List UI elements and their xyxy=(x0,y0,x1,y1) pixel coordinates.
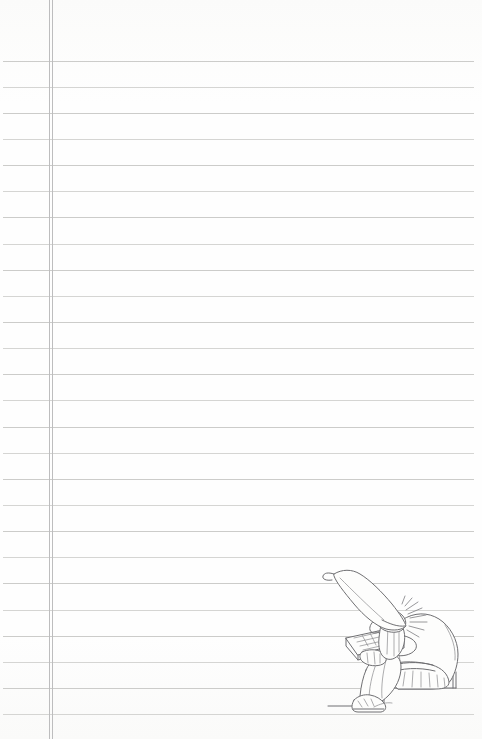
rule-line xyxy=(3,165,474,166)
rule-line xyxy=(3,505,474,506)
pointed-hat-icon xyxy=(323,570,406,630)
rule-line xyxy=(3,557,474,558)
rule-line xyxy=(3,322,474,323)
rule-line xyxy=(3,374,474,375)
rule-line xyxy=(3,296,474,297)
rule-line xyxy=(3,139,474,140)
gnome-with-keyboard-illustration xyxy=(306,560,482,739)
rule-line xyxy=(3,400,474,401)
rule-line xyxy=(3,61,474,62)
rule-line xyxy=(3,113,474,114)
notebook-page xyxy=(0,0,482,739)
rule-line xyxy=(3,244,474,245)
margin-rule-left xyxy=(49,0,50,739)
rule-line xyxy=(3,270,474,271)
rule-line xyxy=(3,531,474,532)
rule-line xyxy=(3,453,474,454)
rule-line xyxy=(3,348,474,349)
rule-line xyxy=(3,87,474,88)
rule-line xyxy=(3,217,474,218)
rule-line xyxy=(3,191,474,192)
rule-line xyxy=(3,427,474,428)
rule-line xyxy=(3,479,474,480)
margin-rule-right xyxy=(52,0,53,739)
